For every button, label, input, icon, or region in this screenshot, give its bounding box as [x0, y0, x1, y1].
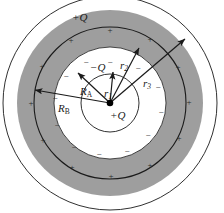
r2-label-sub: 2: [124, 64, 128, 73]
minus-sign: −: [82, 58, 90, 67]
electrostatics-diagram: − − − − − − − − − − − − + + + + + + + + …: [0, 0, 224, 213]
RB-label-sub: B: [65, 107, 70, 116]
minus-sign: −: [106, 58, 114, 67]
minus-sign: −: [134, 64, 142, 73]
plus-sign: +: [185, 98, 193, 107]
r3-label: r3: [143, 78, 151, 91]
r1-label: r1: [104, 88, 112, 101]
RA-label-sub: A: [87, 90, 92, 99]
RA-label: RA: [80, 86, 92, 99]
RB-label-text: R: [58, 102, 65, 114]
plus-sign: +: [39, 136, 47, 145]
minus-sign: −: [53, 121, 61, 130]
outer-charge-label: +Q: [72, 12, 87, 23]
plus-sign: +: [68, 163, 76, 172]
plus-sign: +: [175, 134, 183, 143]
plus-sign: +: [106, 26, 114, 35]
minus-sign: −: [95, 150, 103, 159]
r1-label-sub: 1: [108, 92, 112, 101]
plus-sign: +: [174, 63, 182, 72]
plus-sign: +: [27, 99, 35, 108]
shell-charge-label: −Q: [90, 62, 105, 73]
minus-sign: −: [154, 83, 162, 92]
minus-sign: −: [157, 108, 165, 117]
plus-sign: +: [38, 62, 46, 71]
plus-sign: +: [146, 161, 154, 170]
plus-sign: +: [107, 172, 115, 181]
minus-sign: −: [123, 147, 131, 156]
minus-sign: −: [62, 72, 70, 81]
RB-label: RB: [58, 103, 70, 116]
plus-sign: +: [146, 35, 154, 44]
minus-sign: −: [70, 143, 78, 152]
plus-sign: +: [67, 36, 75, 45]
minus-sign: −: [144, 131, 152, 140]
r3-label-sub: 3: [147, 82, 151, 91]
r2-label: r2: [120, 60, 128, 73]
point-charge-label: +Q: [110, 110, 125, 121]
RA-label-text: R: [80, 85, 87, 97]
